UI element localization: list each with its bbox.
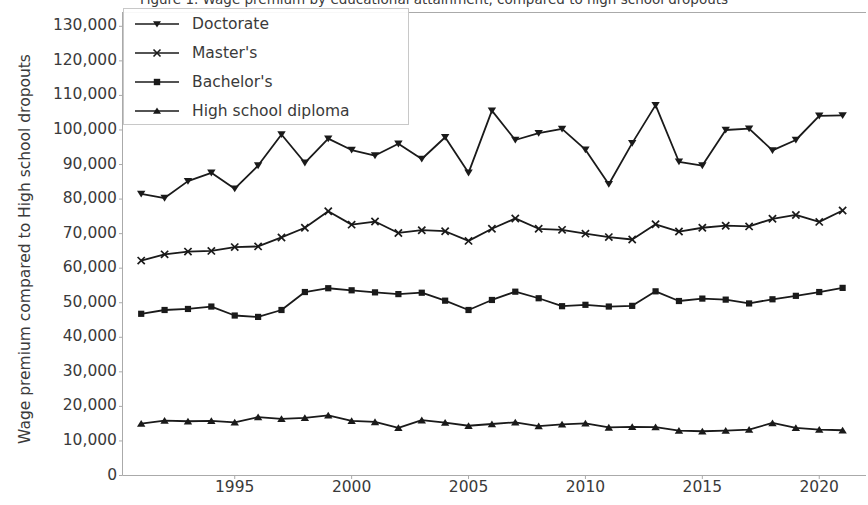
legend-item-masters: Master's [124, 38, 408, 67]
series-high-school-diploma [137, 412, 847, 435]
data-point-marker [301, 160, 309, 167]
legend-marker-square-icon [134, 75, 180, 89]
data-point-marker [768, 147, 776, 154]
data-point-marker [816, 289, 822, 295]
x-tick-label: 1995 [215, 478, 254, 496]
data-point-marker [512, 215, 519, 222]
data-point-marker [840, 285, 846, 291]
x-tick-label: 2000 [332, 478, 371, 496]
data-point-marker [161, 307, 167, 313]
series-line [141, 210, 842, 260]
data-point-marker [278, 234, 285, 241]
series-master-s [138, 207, 847, 264]
data-point-marker [302, 289, 308, 295]
data-point-marker [792, 137, 800, 144]
data-point-marker [652, 288, 658, 294]
data-point-marker [628, 140, 636, 147]
data-point-marker [723, 297, 729, 303]
data-point-marker [185, 306, 191, 312]
x-tick-label: 2020 [800, 478, 839, 496]
data-point-marker [746, 300, 752, 306]
data-point-marker [606, 303, 612, 309]
data-point-marker [582, 302, 588, 308]
legend-item-doctorate: Doctorate [124, 9, 408, 38]
data-point-marker [349, 287, 355, 293]
data-point-marker [372, 289, 378, 295]
data-point-marker [769, 296, 775, 302]
data-point-marker [629, 303, 635, 309]
data-point-marker [231, 186, 239, 193]
data-point-marker [325, 208, 332, 215]
data-point-marker [581, 146, 589, 153]
data-point-marker [255, 314, 261, 320]
data-point-marker [232, 312, 238, 318]
legend-marker-triangle-up-icon [134, 104, 180, 118]
chart-figure: Figure 1. Wage premium by educational at… [0, 0, 868, 505]
data-point-marker [465, 237, 472, 244]
data-point-marker [511, 137, 519, 144]
legend-label: Master's [192, 44, 257, 62]
data-point-marker [208, 303, 214, 309]
data-point-marker [793, 293, 799, 299]
x-tick-label: 2005 [449, 478, 488, 496]
data-point-marker [699, 295, 705, 301]
data-point-marker [301, 224, 308, 231]
data-point-marker [839, 207, 846, 214]
x-tick-label: 2015 [683, 478, 722, 496]
data-point-marker [465, 307, 471, 313]
data-point-marker [488, 225, 495, 232]
data-point-marker [138, 311, 144, 317]
data-point-marker [536, 295, 542, 301]
data-point-marker [419, 290, 425, 296]
legend-marker-x-icon [134, 46, 180, 60]
x-tick-label: 2010 [566, 478, 605, 496]
legend-item-high-school-diploma: High school diploma [124, 96, 408, 125]
data-point-marker [489, 297, 495, 303]
data-point-marker [676, 298, 682, 304]
data-point-marker [325, 285, 331, 291]
data-point-marker [464, 170, 472, 177]
data-series-layer [137, 102, 847, 435]
legend-marker-triangle-down-icon [134, 17, 180, 31]
legend-label: Doctorate [192, 15, 269, 33]
legend-label: Bachelor's [192, 73, 273, 91]
data-point-marker [559, 303, 565, 309]
data-point-marker [418, 156, 426, 163]
data-point-marker [395, 291, 401, 297]
chart-legend: Doctorate Master's Bachelor's High schoo… [123, 8, 409, 125]
legend-label: High school diploma [192, 102, 350, 120]
data-point-marker [442, 298, 448, 304]
series-bachelor-s [138, 285, 846, 320]
data-point-marker [651, 102, 659, 109]
data-point-marker [278, 307, 284, 313]
legend-item-bachelors: Bachelor's [124, 67, 408, 96]
data-point-marker [605, 181, 613, 188]
data-point-marker [512, 289, 518, 295]
